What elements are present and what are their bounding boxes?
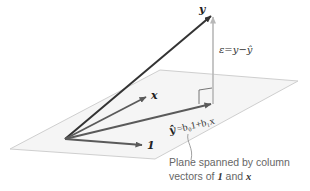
residual-label: ε=y−ŷ bbox=[219, 44, 253, 55]
caption-line-2: vectors of 1 and x bbox=[169, 169, 290, 184]
caption-line-1: Plane spanned by column bbox=[169, 155, 290, 169]
y-label: y bbox=[198, 3, 207, 16]
plane-caption: Plane spanned by column vectors of 1 and… bbox=[169, 155, 290, 184]
caption-and: and bbox=[223, 170, 246, 182]
x-label: x bbox=[150, 89, 158, 102]
one-label: 1 bbox=[147, 139, 155, 152]
caption-prefix: vectors of bbox=[169, 170, 217, 182]
caption-vector-x: x bbox=[246, 171, 251, 182]
